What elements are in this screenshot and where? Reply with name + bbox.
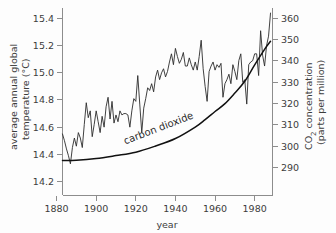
right-axis-title-text: CO <box>303 136 314 150</box>
right-axis-title-line2: (parts per million) <box>315 60 326 145</box>
right-axis-tick-labels: 360 350 340 330 320 310 300 290 <box>281 13 299 173</box>
right-axis-title: CO2 concentration (parts per million) <box>303 60 326 150</box>
carbon-dioxide-annotation: carbon dioxide <box>122 110 195 147</box>
x-tick-label: 1940 <box>163 203 187 214</box>
right-tick-label: 310 <box>281 119 299 130</box>
right-tick-label: 360 <box>281 13 299 24</box>
x-tick-label: 1980 <box>243 203 267 214</box>
x-axis-ticks <box>57 196 255 202</box>
x-tick-label: 1920 <box>124 203 148 214</box>
left-axis-tick-labels: 15.4 15.2 15.0 14.8 14.6 14.4 14.2 <box>33 13 54 187</box>
left-axis-title: average annual global temperature (°C) <box>8 44 31 150</box>
left-axis-title-line2: temperature (°C) <box>20 58 31 140</box>
left-tick-label: 14.6 <box>33 122 54 133</box>
x-tick-label: 1960 <box>203 203 227 214</box>
right-tick-label: 330 <box>281 77 299 88</box>
left-tick-label: 14.8 <box>33 94 54 105</box>
x-tick-label: 1900 <box>84 203 108 214</box>
x-axis-tick-labels: 188019001920194019601980 <box>44 203 266 214</box>
right-tick-label: 290 <box>281 162 299 173</box>
left-tick-label: 15.2 <box>33 40 54 51</box>
right-tick-label: 340 <box>281 55 299 66</box>
left-axis-ticks <box>57 19 63 182</box>
left-tick-label: 14.2 <box>33 176 54 187</box>
right-tick-label: 350 <box>281 34 299 45</box>
chart-figure: 15.4 15.2 15.0 14.8 14.6 14.4 14.2 360 3… <box>0 0 336 233</box>
left-tick-label: 15.0 <box>33 67 54 78</box>
x-tick-label: 1880 <box>44 203 68 214</box>
x-axis-title: year <box>156 219 177 230</box>
left-tick-label: 14.4 <box>33 149 54 160</box>
right-tick-label: 320 <box>281 98 299 109</box>
left-tick-label: 15.4 <box>33 13 54 24</box>
chart-svg: 15.4 15.2 15.0 14.8 14.6 14.4 14.2 360 3… <box>0 0 336 233</box>
right-axis-ticks <box>273 19 279 168</box>
left-axis-title-line1: average annual global <box>8 44 19 150</box>
right-tick-label: 300 <box>281 141 299 152</box>
